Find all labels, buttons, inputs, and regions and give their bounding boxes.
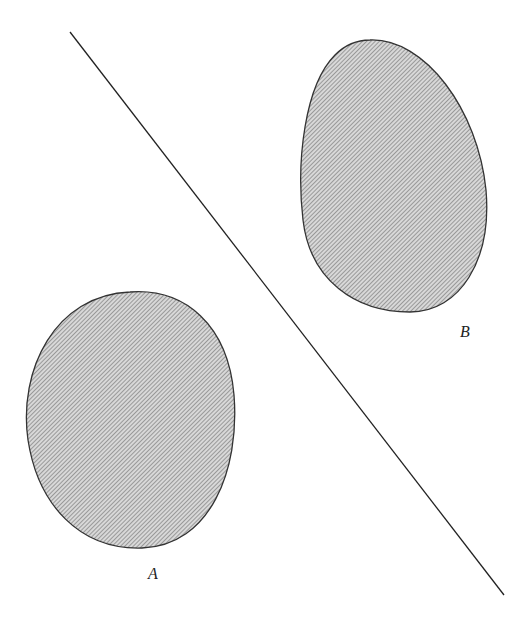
region-a-label: A [147,565,158,582]
region-a-shape [26,292,234,548]
region-b-shape [301,40,487,312]
diagram-canvas: A B [0,0,532,618]
region-b-label: B [460,323,470,340]
